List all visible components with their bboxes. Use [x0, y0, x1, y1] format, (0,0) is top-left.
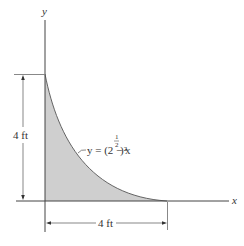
equation-suffix: )²: [120, 144, 128, 157]
x-axis-label: x: [231, 194, 237, 206]
area-under-curve-diagram: y x 4 ft 4 ft y = (2 − x 1 2 )²: [0, 0, 244, 246]
equation-exponent-numerator: 1: [115, 133, 119, 141]
vertical-dimension-label: 4 ft: [13, 129, 28, 141]
horizontal-dimension-label: 4 ft: [98, 217, 113, 229]
arrow-up-icon: [21, 75, 25, 80]
equation-leader-line: [78, 150, 86, 153]
arrow-down-icon: [21, 195, 25, 200]
arrow-right-icon: [162, 221, 167, 225]
arrow-left-icon: [46, 221, 51, 225]
equation-exponent-denominator: 2: [115, 141, 119, 149]
y-axis-label: y: [41, 5, 47, 17]
